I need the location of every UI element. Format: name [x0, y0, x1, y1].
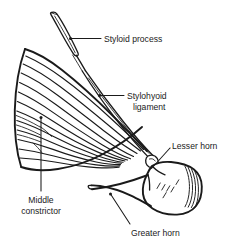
- label-lesser-horn: Lesser horn: [172, 141, 218, 151]
- label-stylohyoid-ligament-line1: Stylohyoid: [127, 91, 167, 101]
- label-middle-constrictor-line2: constrictor: [21, 206, 61, 216]
- label-middle-constrictor-line1: Middle: [28, 195, 54, 205]
- label-styloid-process: Styloid process: [104, 34, 162, 44]
- hyoid-body: [143, 162, 202, 215]
- label-stylohyoid-ligament-line2: ligament: [133, 102, 166, 112]
- anatomy-figure: Styloid process Stylohyoid ligament Less…: [0, 0, 240, 252]
- anatomy-diagram-canvas: Styloid process Stylohyoid ligament Less…: [0, 0, 240, 252]
- label-greater-horn: Greater horn: [131, 228, 180, 238]
